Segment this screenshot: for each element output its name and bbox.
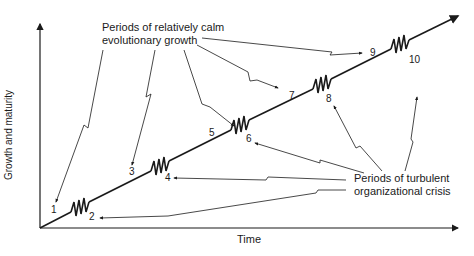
phase-label-3: 3 [129, 167, 135, 177]
phase-label-6: 6 [246, 134, 252, 144]
calm-annotation-line2: evolutionary growth [102, 34, 197, 46]
calm-pointers [56, 38, 362, 202]
y-axis-label: Growth and maturity [3, 90, 14, 180]
phase-label-10: 10 [409, 55, 420, 65]
x-axis-label: Time [237, 233, 261, 245]
crisis-zigzag-6 [231, 116, 249, 134]
crisis-annotation-line1: Periods of turbulent [354, 172, 449, 184]
crisis-zigzag-8 [313, 75, 331, 93]
phase-label-8: 8 [326, 94, 332, 104]
phase-label-1: 1 [51, 205, 57, 215]
phase-label-2: 2 [89, 212, 95, 222]
phase-label-9: 9 [370, 48, 376, 58]
diagram-canvas [0, 0, 474, 256]
crisis-zigzag-10 [391, 35, 409, 53]
crisis-annotation-line2: organizational crisis [354, 185, 451, 197]
phase-label-4: 4 [165, 173, 171, 183]
phase-label-5: 5 [209, 128, 215, 138]
crisis-zigzag-2 [71, 198, 89, 216]
calm-annotation-line1: Periods of relatively calm [102, 21, 224, 33]
phase-label-7: 7 [289, 91, 295, 101]
